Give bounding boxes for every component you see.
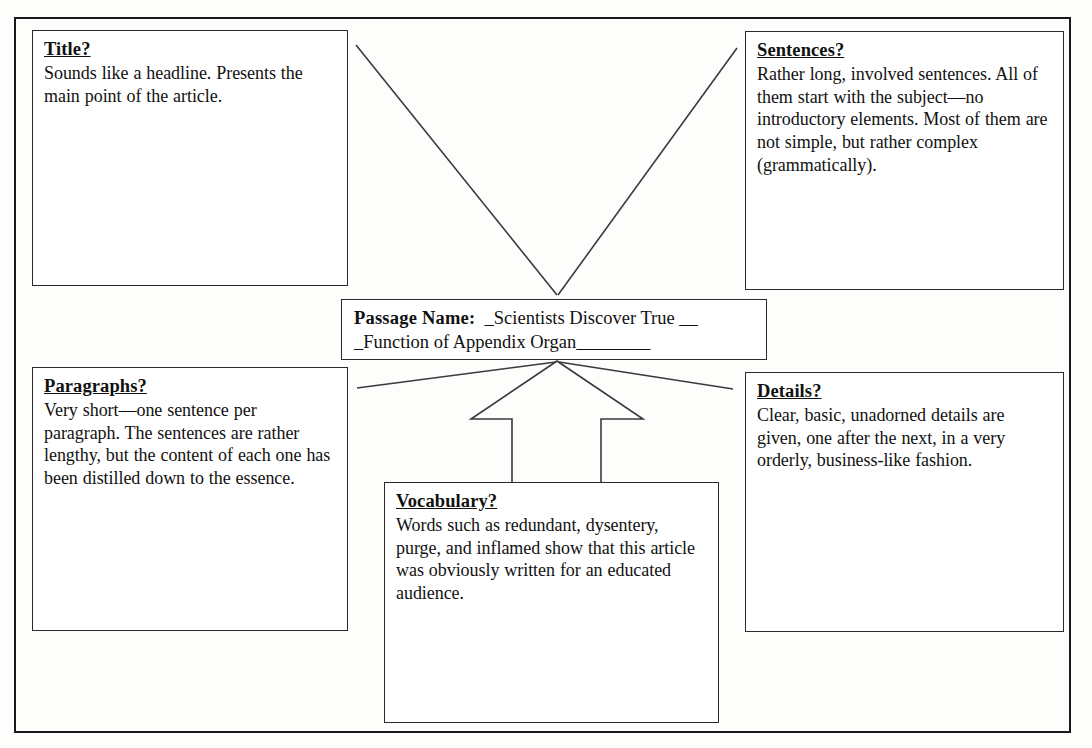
note-body-title: Sounds like a headline. Presents the mai…	[44, 62, 337, 108]
note-body-paragraphs: Very short—one sentence per paragraph. T…	[44, 399, 337, 490]
note-body-details: Clear, basic, unadorned details are give…	[757, 404, 1053, 472]
connector-paragraphs-line	[357, 362, 556, 388]
note-heading-title: Title?	[44, 38, 337, 61]
passage-name-value-line-1[interactable]: _Scientists Discover True __	[475, 308, 698, 328]
connector-vocabulary-arrow-icon	[471, 361, 643, 483]
note-body-sentences: Rather long, involved sentences. All of …	[757, 63, 1053, 177]
connector-sentences-line	[558, 48, 737, 295]
note-heading-sentences: Sentences?	[757, 39, 1053, 62]
worksheet-page: Title? Sounds like a headline. Presents …	[0, 0, 1092, 748]
note-box-details[interactable]: Details? Clear, basic, unadorned details…	[745, 372, 1064, 632]
passage-name-label: Passage Name:	[354, 308, 475, 328]
connector-title-line	[356, 45, 557, 295]
note-heading-paragraphs: Paragraphs?	[44, 375, 337, 398]
passage-name-line-1: Passage Name: _Scientists Discover True …	[354, 306, 758, 330]
note-box-title[interactable]: Title? Sounds like a headline. Presents …	[32, 30, 348, 286]
passage-name-box[interactable]: Passage Name: _Scientists Discover True …	[341, 299, 767, 360]
connector-details-line	[559, 362, 733, 389]
passage-name-line-2: _Function of Appendix Organ________	[354, 330, 758, 354]
passage-name-value-line-2[interactable]: _Function of Appendix Organ________	[354, 332, 650, 352]
note-box-sentences[interactable]: Sentences? Rather long, involved sentenc…	[745, 31, 1064, 290]
note-box-paragraphs[interactable]: Paragraphs? Very short—one sentence per …	[32, 367, 348, 631]
note-body-vocabulary: Words such as redundant, dysentery, purg…	[396, 514, 708, 605]
note-box-vocabulary[interactable]: Vocabulary? Words such as redundant, dys…	[384, 482, 719, 723]
note-heading-details: Details?	[757, 380, 1053, 403]
note-heading-vocabulary: Vocabulary?	[396, 490, 708, 513]
